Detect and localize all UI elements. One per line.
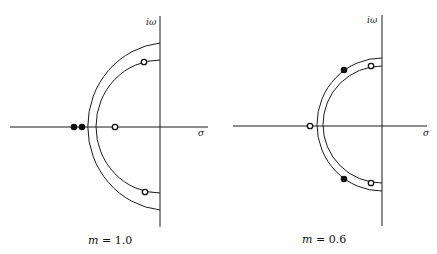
pole-marker	[341, 67, 348, 74]
zero-marker	[141, 59, 146, 64]
imag-axis-label: iω	[367, 15, 378, 25]
zero-marker	[112, 124, 117, 129]
zero-marker	[142, 189, 147, 194]
pole-marker	[71, 124, 78, 131]
imag-axis-label: iω	[146, 17, 157, 27]
real-axis-label: σ	[423, 128, 430, 138]
zero-marker	[368, 180, 373, 185]
caption: m = 1.0	[88, 234, 132, 247]
inner-arc	[323, 66, 382, 183]
diagram-m-0-6: iω σ m = 0.6	[233, 15, 430, 246]
real-axis-label: σ	[198, 128, 205, 138]
zero-marker	[307, 123, 312, 128]
zero-marker	[368, 63, 373, 68]
pole-marker	[79, 124, 86, 131]
caption: m = 0.6	[302, 233, 346, 246]
pole-marker	[341, 176, 348, 183]
pole-zero-diagrams: iω σ m = 1.0 iω σ m = 0.6	[0, 0, 437, 254]
diagram-m-1-0: iω σ m = 1.0	[10, 16, 208, 247]
outer-arc	[317, 58, 382, 191]
